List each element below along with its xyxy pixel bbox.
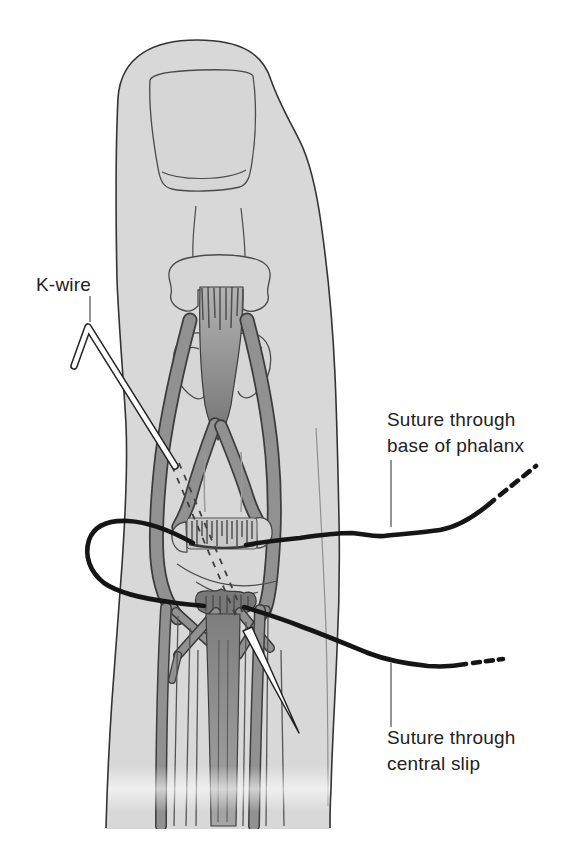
medical-figure-extensor-tendon-repair: K-wire Suture through base of phalanx Su… xyxy=(0,0,562,843)
central-slip xyxy=(195,589,256,616)
suture-right-limb-dashed-tail xyxy=(500,466,536,495)
fade-band xyxy=(107,766,335,812)
suture-central-slip-label: Suture through central slip xyxy=(387,725,516,777)
fingernail xyxy=(150,70,256,191)
suture-central-slip-dashed-tail xyxy=(473,659,503,663)
bottom-margin xyxy=(0,829,562,843)
suture-base-of-phalanx-label: Suture through base of phalanx xyxy=(387,407,524,459)
base-of-phalanx-repair-site xyxy=(172,518,272,553)
kwire-label: K-wire xyxy=(36,272,91,298)
